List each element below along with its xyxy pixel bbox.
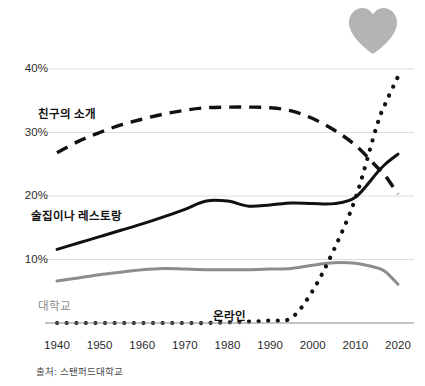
x-axis-tick-labels: 194019501960197019801990200020102020 <box>0 339 425 357</box>
x-tick-label-1950: 1950 <box>87 339 113 351</box>
x-tick-label-1960: 1960 <box>129 339 155 351</box>
y-tick-label-40: 40% <box>4 62 48 74</box>
series-label-bars-restaurants: 술집이나 레스토랑 <box>31 207 122 223</box>
chart-container: 10%20%30%40% 194019501960197019801990200… <box>0 0 425 386</box>
y-tick-label-30: 30% <box>4 126 48 138</box>
x-tick-label-1980: 1980 <box>215 339 241 351</box>
source-note: 출처: 스탠퍼드대학교 <box>36 364 123 378</box>
gridlines <box>47 69 414 260</box>
x-tick-label-2010: 2010 <box>342 339 368 351</box>
series-line-2 <box>57 263 398 285</box>
series-label-friends: 친구의 소개 <box>38 105 96 121</box>
line-chart-plot <box>0 0 425 386</box>
y-axis-tick-labels: 10%20%30%40% <box>0 0 48 386</box>
series-line-0 <box>57 107 398 194</box>
series-label-college: 대학교 <box>38 297 71 313</box>
x-tick-label-2000: 2000 <box>300 339 326 351</box>
x-tick-label-1990: 1990 <box>257 339 283 351</box>
y-tick-label-10: 10% <box>4 253 48 265</box>
x-tick-label-1940: 1940 <box>44 339 70 351</box>
x-tick-label-1970: 1970 <box>172 339 198 351</box>
x-tick-label-2020: 2020 <box>385 339 411 351</box>
series-label-online: 온라인 <box>213 307 246 323</box>
series-line-1 <box>57 154 398 249</box>
series-lines <box>57 77 398 323</box>
y-tick-label-20: 20% <box>4 189 48 201</box>
